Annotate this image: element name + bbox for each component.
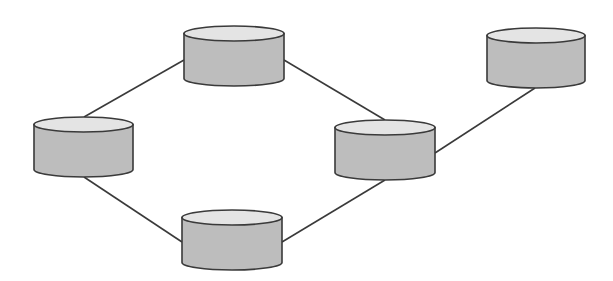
- edge-node-middle-right-node-far-right: [435, 88, 535, 153]
- database-nodes: [34, 26, 585, 270]
- edge-node-left-node-bottom: [84, 177, 182, 242]
- diagram-canvas: [0, 0, 613, 281]
- node-top-database-icon: [184, 26, 284, 86]
- node-bottom-database-icon: [182, 210, 282, 270]
- connection-lines: [84, 60, 535, 242]
- network-diagram: [0, 0, 613, 281]
- node-middle-right-database-icon: [335, 120, 435, 180]
- edge-node-bottom-node-middle-right: [282, 180, 385, 242]
- edge-node-left-node-top: [84, 60, 184, 117]
- node-far-right-database-icon: [487, 28, 585, 88]
- node-left-database-icon: [34, 117, 133, 177]
- edge-node-top-node-middle-right: [284, 60, 385, 120]
